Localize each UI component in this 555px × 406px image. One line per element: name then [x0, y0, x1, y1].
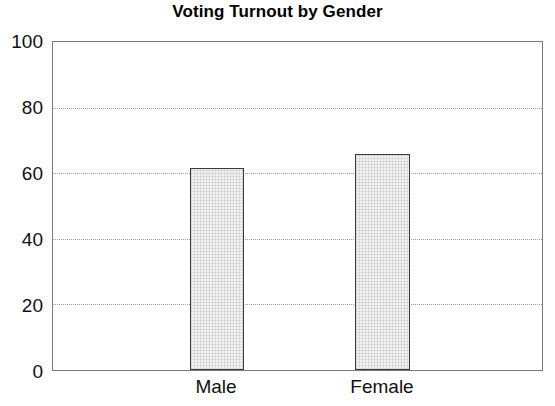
x-axis-tick-label-male: Male — [195, 377, 236, 398]
gridline-40 — [53, 239, 542, 240]
y-axis-tick-label-0: 0 — [0, 362, 43, 381]
bar-chart: Voting Turnout by Gender 0 20 40 60 80 1… — [0, 0, 555, 406]
plot-area — [52, 41, 543, 371]
y-axis-tick-label-20: 20 — [0, 296, 43, 315]
gridline-60 — [53, 173, 542, 174]
bar-female — [355, 154, 410, 371]
y-axis-tick-label-40: 40 — [0, 230, 43, 249]
bar-male — [190, 168, 244, 370]
gridline-20 — [53, 304, 542, 305]
y-axis-tick-label-60: 60 — [0, 164, 43, 183]
y-axis-tick-label-100: 100 — [0, 32, 43, 51]
x-axis-tick-label-female: Female — [350, 377, 413, 398]
chart-title: Voting Turnout by Gender — [0, 2, 555, 22]
gridline-80 — [53, 108, 542, 109]
y-axis-tick-label-80: 80 — [0, 98, 43, 117]
